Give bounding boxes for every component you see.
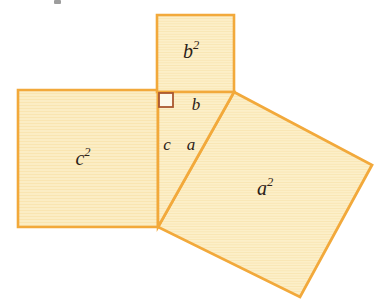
diagram-canvas: b2 c2 a2 b c a [0,0,384,307]
area-label-a-squared-exponent: 2 [267,175,273,189]
square-b-squared [157,15,234,92]
area-label-b-squared-base: b [183,40,193,62]
area-label-c-squared-base: c [75,147,84,169]
right-angle-marker-icon [159,93,173,107]
area-label-b-squared-exponent: 2 [193,38,199,52]
side-label-a: a [187,135,196,154]
side-label-c: c [163,135,171,154]
area-label-a-squared-base: a [257,177,267,199]
side-label-b: b [192,95,201,114]
area-label-c-squared-exponent: 2 [84,145,90,159]
pythagorean-diagram: b2 c2 a2 b c a [0,0,384,307]
